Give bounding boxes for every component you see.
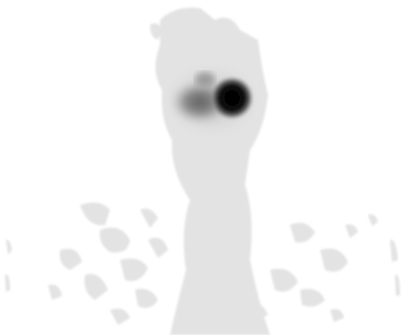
hot-nodule bbox=[210, 76, 254, 120]
background-tissue bbox=[5, 8, 400, 335]
scintigraphy-image bbox=[0, 0, 410, 335]
upper-uptake bbox=[195, 72, 215, 88]
